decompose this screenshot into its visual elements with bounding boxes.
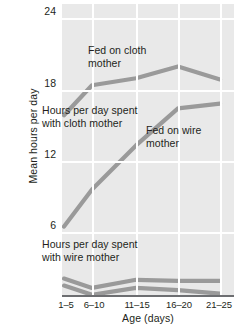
gridline-y-12 [62,161,234,163]
y-axis-tick-labels: 24 18 12 6 [0,0,56,328]
y-tick-12: 12 [4,148,56,160]
x-tick-6-10: 6–10 [72,299,116,310]
annotation-hours-with-wire-mother: Hours per day spent with wire mother [42,238,154,263]
gridline-y-24 [62,18,234,20]
x-tick-11-15: 11–15 [115,299,159,310]
gridline-y-6 [62,232,234,234]
x-axis-title: Age (days) [62,312,234,324]
y-tick-18: 18 [4,77,56,89]
y-tick-6: 6 [4,219,56,231]
x-axis-line [62,295,234,297]
annotation-fed-on-wire-mother: Fed on wire mother [146,124,232,149]
chart-figure: Mean hours per day 24 18 12 6 [0,0,234,328]
annotation-fed-on-cloth-mother: Fed on cloth mother [88,44,180,69]
annotation-hours-with-cloth-mother: Hours per day spent with cloth mother [42,104,154,129]
gridline-x-21-25 [220,4,222,296]
x-tick-16-20: 16–20 [157,299,201,310]
x-tick-21-25: 21–25 [197,299,234,310]
y-tick-24: 24 [4,5,56,17]
gridline-y-18 [62,90,234,92]
